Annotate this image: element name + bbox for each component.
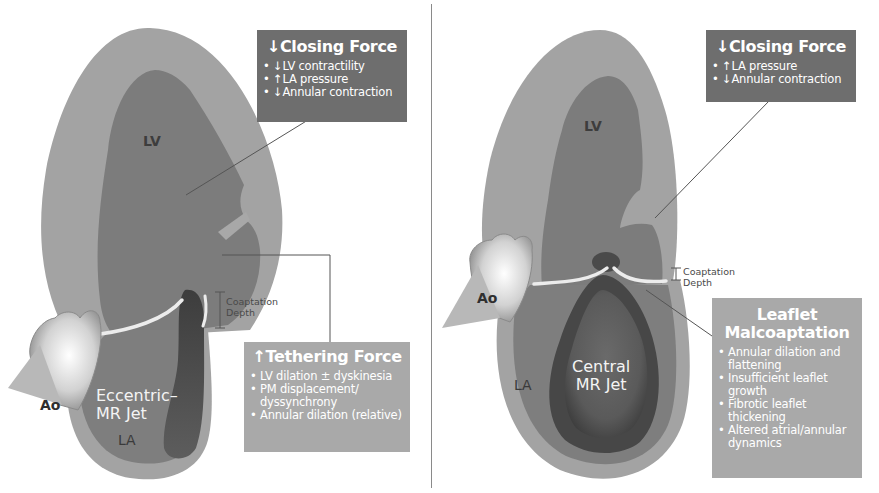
right-ao-label: Ao: [477, 290, 497, 306]
list-item: Annular dilation and flattening: [718, 346, 856, 372]
right-closing-force-list: ↑LA pressure ↓Annular contraction: [712, 60, 850, 86]
right-la-label: LA: [514, 377, 532, 393]
left-lv-label: LV: [143, 133, 161, 149]
malcoaptation-title-line1: Leaflet: [718, 306, 856, 324]
left-closing-force-list: ↓LV contractility ↑LA pressure ↓Annular …: [263, 60, 401, 99]
left-coaptation-line1: Coaptation: [226, 296, 278, 307]
malcoaptation-title-line2: Malcoaptation: [718, 324, 856, 342]
right-leaflet-malcoaptation-title: Leaflet Malcoaptation: [718, 306, 856, 342]
list-item: PM displacement/ dyssynchrony: [250, 383, 404, 409]
list-item: Insufficient leaflet growth: [718, 372, 856, 398]
left-jet-label-line1: Eccentric–: [96, 387, 178, 405]
left-tethering-force-list: LV dilation ± dyskinesia PM displacement…: [250, 370, 404, 422]
left-ao-label: Ao: [40, 397, 60, 413]
right-jet-label: Central MR Jet: [572, 358, 630, 394]
left-closing-force-title: ↓Closing Force: [263, 38, 401, 56]
left-closing-force-box: ↓Closing Force ↓LV contractility ↑LA pre…: [257, 30, 407, 122]
panel-divider: [431, 4, 432, 488]
right-coaptation-line2: Depth: [683, 277, 735, 288]
right-closing-force-box: ↓Closing Force ↑LA pressure ↓Annular con…: [706, 30, 856, 102]
left-coaptation-label: Coaptation Depth: [226, 296, 278, 318]
right-closing-force-title: ↓Closing Force: [712, 38, 850, 56]
right-leaflet-malcoaptation-box: Leaflet Malcoaptation Annular dilation a…: [712, 298, 862, 478]
left-jet-label-line2: MR Jet: [96, 405, 178, 423]
right-leaflet-malcoaptation-list: Annular dilation and flattening Insuffic…: [718, 346, 856, 450]
diagram-stage: LV Ao LA Eccentric– MR Jet Coaptation De…: [0, 0, 879, 493]
right-lv-label: LV: [584, 118, 602, 134]
list-item: Annular dilation (relative): [250, 409, 404, 422]
right-coaptation-line1: Coaptation: [683, 266, 735, 277]
right-jet-label-line2: MR Jet: [572, 376, 630, 394]
list-item: ↓Annular contraction: [263, 86, 401, 99]
list-item: Altered atrial/annular dynamics: [718, 424, 856, 450]
left-jet-label: Eccentric– MR Jet: [96, 387, 178, 423]
left-tethering-force-box: ↑Tethering Force LV dilation ± dyskinesi…: [244, 342, 410, 452]
right-jet-label-line1: Central: [572, 358, 630, 376]
list-item: Fibrotic leaflet thickening: [718, 398, 856, 424]
right-coaptation-label: Coaptation Depth: [683, 266, 735, 288]
list-item: ↓Annular contraction: [712, 73, 850, 86]
left-tethering-force-title: ↑Tethering Force: [250, 348, 404, 366]
left-la-label: LA: [118, 432, 136, 448]
left-coaptation-line2: Depth: [226, 307, 278, 318]
